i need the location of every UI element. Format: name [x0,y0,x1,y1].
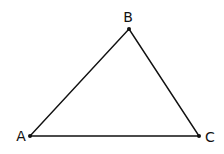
vertex-b-label: B [123,9,133,25]
vertex-a-point [28,134,32,138]
edge-ab [30,29,129,136]
vertex-b-point [127,27,131,31]
edge-bc [129,29,199,136]
triangle-diagram: A B C [0,0,224,154]
vertex-a-label: A [16,128,26,144]
vertex-c-point [197,134,201,138]
vertex-c-label: C [205,129,215,145]
